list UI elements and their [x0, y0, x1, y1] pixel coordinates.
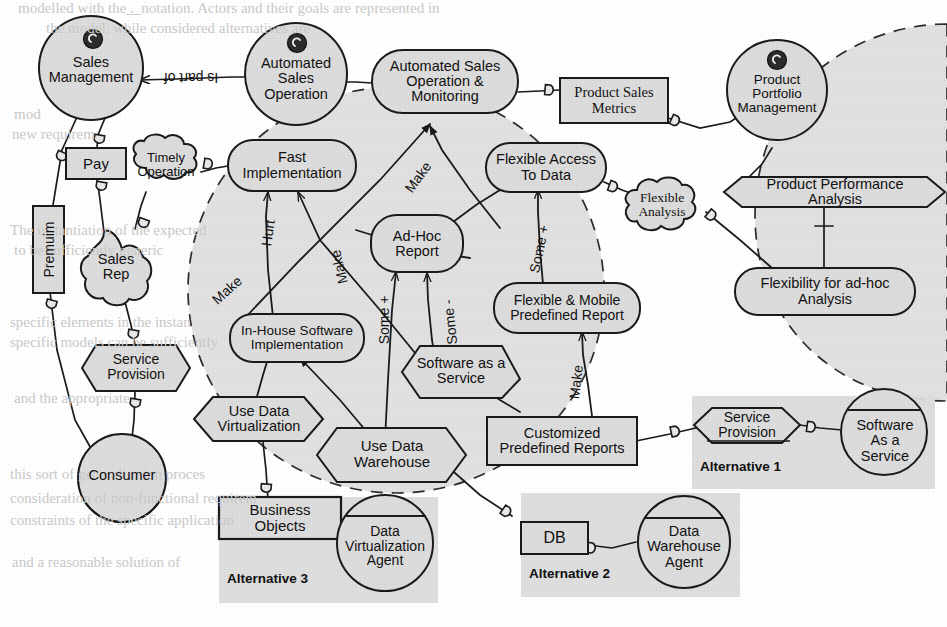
node-product-performance-analysis[interactable]	[724, 177, 945, 207]
istar-model-svg: Fast Implementation --> Fast Implementat…	[0, 0, 947, 627]
spiral-icon-product-portfolio-management	[768, 51, 787, 70]
node-consumer[interactable]	[78, 434, 166, 522]
node-automated-sales-operation-monitoring[interactable]	[372, 50, 518, 113]
node-use-data-virtualization[interactable]	[194, 397, 323, 441]
node-premuim[interactable]	[33, 206, 64, 293]
node-flexible-access-to-data[interactable]	[486, 143, 606, 192]
node-ad-hoc-report[interactable]	[371, 215, 463, 272]
link-cpr-serviceprov1	[636, 427, 700, 441]
node-in-house-software-implementation[interactable]	[230, 314, 364, 362]
node-software-as-a-service-task[interactable]	[402, 346, 520, 398]
node-customized-predefined-reports[interactable]	[487, 417, 637, 465]
spiral-icon-automated-sales-operation	[288, 34, 307, 53]
node-data-virtualization-agent[interactable]	[337, 495, 433, 591]
link-aso-salesmgmt	[140, 77, 252, 80]
node-service-provision-left[interactable]	[82, 345, 190, 391]
diagram-canvas: Fast Implementation --> Fast Implementat…	[0, 0, 947, 627]
node-fast-implementation[interactable]	[228, 140, 356, 191]
node-service-provision-alt1[interactable]	[694, 408, 800, 443]
node-flexibility-for-ad-hoc-analysis[interactable]	[735, 268, 915, 315]
node-db[interactable]	[521, 522, 588, 554]
spiral-icon-sales-management	[84, 30, 103, 49]
node-sales-rep[interactable]	[81, 231, 151, 305]
node-flexible-mobile-predefined-report[interactable]	[494, 283, 640, 333]
node-product-sales-metrics[interactable]	[560, 78, 668, 123]
node-pay[interactable]	[66, 148, 126, 179]
node-flexible-analysis[interactable]	[626, 177, 696, 230]
node-timely-operation[interactable]	[134, 135, 197, 179]
node-software-as-a-service-agent[interactable]	[841, 389, 927, 475]
node-data-warehouse-agent[interactable]	[638, 496, 730, 588]
node-business-objects[interactable]	[219, 497, 341, 539]
node-use-data-warehouse[interactable]	[317, 428, 466, 482]
